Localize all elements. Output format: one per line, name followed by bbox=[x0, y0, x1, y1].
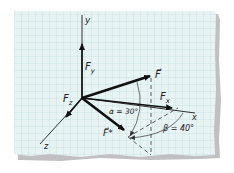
diagram-canvas: y x z Fy Fx Fz F⃗ F⃗* α = 30° β = 40° bbox=[0, 0, 234, 173]
y-axis-label: y bbox=[84, 15, 91, 25]
z-axis-label: z bbox=[43, 142, 49, 151]
label-Fstar: F⃗* bbox=[103, 127, 113, 138]
label-alpha: α = 30° bbox=[109, 107, 139, 116]
label-beta: β = 40° bbox=[162, 124, 194, 133]
graph-paper bbox=[14, 11, 216, 157]
x-axis-label: x bbox=[191, 113, 197, 122]
